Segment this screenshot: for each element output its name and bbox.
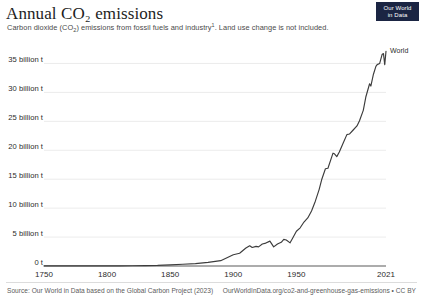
x-axis-tick-label: 1950 <box>287 270 305 279</box>
x-axis-tick-label: 1850 <box>161 270 179 279</box>
y-axis-tick-label: 15 billion t <box>8 171 43 180</box>
y-axis-tick-label: 20 billion t <box>8 142 43 151</box>
chart-container: Annual CO₂ emissions Carbon dioxide (CO2… <box>0 0 422 303</box>
y-axis-tick-label: 10 billion t <box>8 200 43 209</box>
x-axis-tick-label: 1750 <box>35 270 53 279</box>
plot-area: 0 t5 billion t10 billion t15 billion t20… <box>0 0 422 303</box>
license-note[interactable]: OurWorldInData.org/co2-and-greenhouse-ga… <box>223 287 416 294</box>
y-axis-tick-label: 0 t <box>34 258 43 267</box>
plot-svg <box>0 0 422 303</box>
x-axis-tick-label: 1800 <box>98 270 116 279</box>
y-axis-tick-label: 35 billion t <box>8 55 43 64</box>
y-axis-tick-label: 30 billion t <box>8 84 43 93</box>
source-note: Source: Our World in Data based on the G… <box>7 287 213 294</box>
y-axis-tick-label: 25 billion t <box>8 113 43 122</box>
x-axis-tick-label: 1900 <box>224 270 242 279</box>
y-axis-tick-label: 5 billion t <box>12 229 43 238</box>
data-line-world[interactable] <box>44 51 386 266</box>
series-label-world: World <box>390 47 408 54</box>
x-axis-tick-label: 2021 <box>377 270 395 279</box>
footer-divider <box>6 282 417 283</box>
